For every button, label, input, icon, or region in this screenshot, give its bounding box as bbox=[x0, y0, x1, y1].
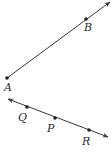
label-b: B bbox=[83, 21, 92, 34]
label-p: P bbox=[46, 122, 55, 135]
point-p bbox=[53, 116, 57, 120]
point-q bbox=[25, 105, 29, 109]
ray-ab bbox=[7, 2, 110, 78]
point-a bbox=[5, 76, 9, 80]
label-a: A bbox=[3, 81, 12, 94]
geometry-diagram: A B Q P R bbox=[0, 0, 112, 154]
label-q: Q bbox=[18, 111, 27, 124]
label-r: R bbox=[81, 135, 90, 148]
point-r bbox=[87, 128, 91, 132]
